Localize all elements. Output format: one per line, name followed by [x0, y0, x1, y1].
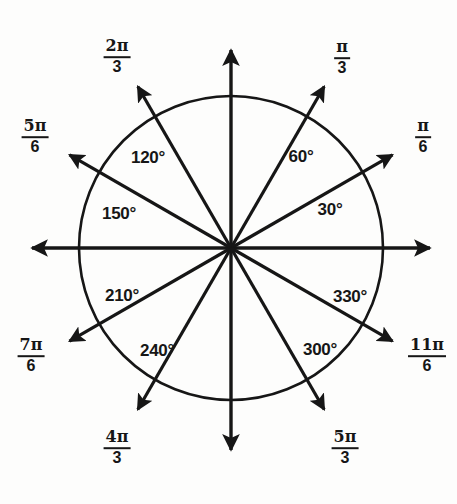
unit-circle-graphic: [0, 0, 457, 504]
degree-label-60: 60°: [289, 148, 314, 165]
radian-label-pi-over-3: π 3: [334, 39, 350, 77]
radian-label-2pi-over-3: 2π 3: [104, 38, 131, 76]
spoke-210-degrees: [70, 248, 232, 341]
spoke-60-degrees: [231, 87, 324, 249]
degree-label-210: 210°: [105, 287, 139, 304]
degree-label-240: 240°: [140, 342, 174, 359]
fraction-pi-over-3: π 3: [334, 39, 350, 77]
fraction-11pi-over-6: 11π 6: [408, 337, 446, 375]
unit-circle-diagram: 30° 60° 120° 150° 210° 240° 300° 330° π …: [0, 0, 457, 504]
radian-label-5pi-over-3: 5π 3: [332, 429, 359, 467]
fraction-4pi-over-3: 4π 3: [104, 429, 131, 467]
degree-label-330: 330°: [333, 288, 367, 305]
fraction-5pi-over-6: 5π 6: [22, 118, 49, 156]
radian-label-5pi-over-6: 5π 6: [22, 118, 49, 156]
fraction-2pi-over-3: 2π 3: [104, 38, 131, 76]
radian-label-4pi-over-3: 4π 3: [104, 429, 131, 467]
degree-label-120: 120°: [131, 149, 165, 166]
spoke-120-degrees: [138, 87, 231, 249]
radian-label-pi-over-6: π 6: [415, 118, 431, 156]
radian-label-11pi-over-6: 11π 6: [408, 337, 446, 375]
degree-label-30: 30°: [318, 201, 343, 218]
spoke-30-degrees: [231, 155, 393, 248]
radian-label-7pi-over-6: 7π 6: [18, 337, 45, 375]
spoke-300-degrees: [231, 248, 324, 410]
degree-label-300: 300°: [303, 341, 337, 358]
fraction-pi-over-6: π 6: [415, 118, 431, 156]
spoke-240-degrees: [138, 248, 231, 410]
degree-label-150: 150°: [102, 205, 136, 222]
spoke-150-degrees: [70, 155, 232, 248]
spoke-330-degrees: [231, 248, 393, 341]
fraction-7pi-over-6: 7π 6: [18, 337, 45, 375]
fraction-5pi-over-3: 5π 3: [332, 429, 359, 467]
